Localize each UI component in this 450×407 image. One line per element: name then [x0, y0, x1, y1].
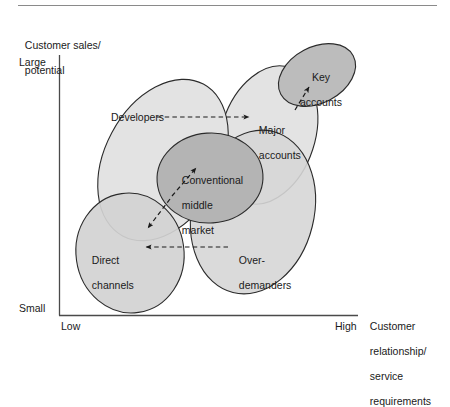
label-direct-channels: Direct channels	[86, 241, 134, 291]
label-direct-channels-line-1: Direct	[92, 254, 119, 266]
label-conventional-line-2: middle	[182, 199, 213, 211]
label-conventional-line-1: Conventional	[182, 174, 243, 186]
label-major-accounts-line-1: Major	[259, 124, 285, 136]
label-developers: Developers	[111, 111, 164, 124]
x-axis-title-line-2: relationship/	[370, 345, 427, 357]
label-key-accounts-line-1: Key	[312, 71, 330, 83]
label-conventional-line-3: market	[182, 224, 214, 236]
label-over-demanders-line-1: Over-	[239, 254, 265, 266]
label-over-demanders-line-2: demanders	[239, 279, 292, 291]
x-tick-low: Low	[61, 320, 80, 333]
label-key-accounts-line-2: accounts	[300, 96, 342, 108]
y-tick-small: Small	[19, 302, 45, 315]
x-axis-title-line-4: requirements	[370, 395, 431, 407]
label-direct-channels-line-2: channels	[92, 279, 134, 291]
label-over-demanders: Over- demanders	[233, 241, 291, 291]
label-key-accounts: Key accounts	[290, 58, 346, 108]
x-axis-title: Customer relationship/ service requireme…	[364, 307, 431, 407]
y-axis-title-line-1: Customer sales/	[25, 39, 101, 51]
y-tick-large: Large	[19, 56, 46, 69]
label-major-accounts-line-2: accounts	[259, 149, 301, 161]
label-conventional-middle-market: Conventional middle market	[176, 161, 243, 236]
x-axis-title-line-3: service	[370, 370, 403, 382]
x-axis-title-line-1: Customer	[370, 320, 416, 332]
y-axis-title: Customer sales/ potential	[19, 26, 101, 76]
label-major-accounts: Major accounts	[253, 111, 301, 161]
x-tick-high: High	[335, 320, 357, 333]
